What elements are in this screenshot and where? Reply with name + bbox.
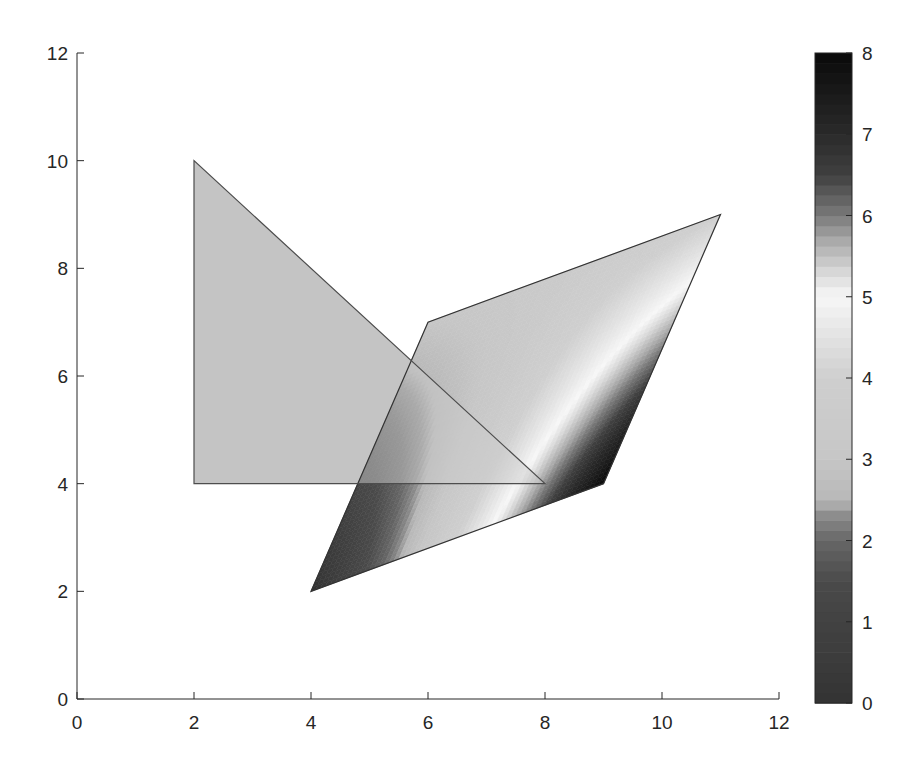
plot-area bbox=[194, 161, 721, 592]
x-tick-label: 8 bbox=[540, 712, 551, 733]
colorbar-tick-label: 8 bbox=[862, 43, 873, 64]
x-tick-label: 0 bbox=[72, 712, 83, 733]
colorbar-tick-label: 0 bbox=[862, 693, 873, 714]
colorbar-tick-label: 2 bbox=[862, 531, 873, 552]
y-tick-label: 2 bbox=[57, 581, 68, 602]
x-tick-label: 4 bbox=[306, 712, 317, 733]
colorbar: 012345678 bbox=[815, 43, 873, 714]
y-tick-label: 12 bbox=[47, 43, 68, 64]
colorbar-tick-label: 1 bbox=[862, 612, 873, 633]
y-tick-label: 8 bbox=[57, 258, 68, 279]
x-axis-ticks: 024681012 bbox=[72, 692, 790, 733]
colorbar-tick-label: 5 bbox=[862, 287, 873, 308]
y-tick-label: 0 bbox=[57, 689, 68, 710]
patch-chart: 024681012 024681012 012345678 bbox=[0, 0, 915, 771]
x-tick-label: 6 bbox=[423, 712, 434, 733]
x-tick-label: 12 bbox=[768, 712, 789, 733]
x-tick-label: 10 bbox=[651, 712, 672, 733]
y-axis-ticks: 024681012 bbox=[47, 43, 84, 710]
colorbar-tick-label: 4 bbox=[862, 368, 873, 389]
x-tick-label: 2 bbox=[189, 712, 200, 733]
y-tick-label: 4 bbox=[57, 474, 68, 495]
y-tick-label: 6 bbox=[57, 366, 68, 387]
y-tick-label: 10 bbox=[47, 151, 68, 172]
colorbar-tick-label: 7 bbox=[862, 124, 873, 145]
colorbar-tick-label: 3 bbox=[862, 449, 873, 470]
colorbar-tick-label: 6 bbox=[862, 206, 873, 227]
